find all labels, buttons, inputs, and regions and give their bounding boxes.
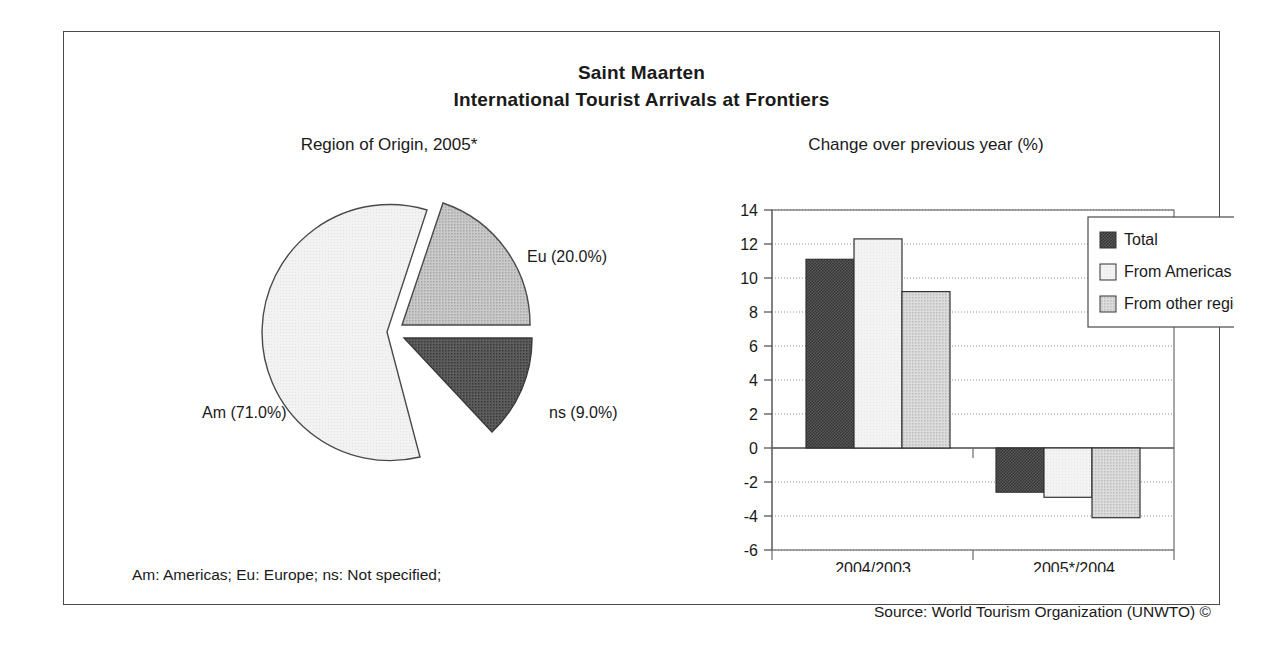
legend-label-from-other-regions: From other regions [1124, 295, 1234, 312]
y-tick-label: -2 [744, 474, 758, 491]
pie-chart-heading: Region of Origin, 2005* [234, 135, 544, 155]
pie-chart [244, 182, 574, 482]
legend-swatch-from-americas [1100, 264, 1116, 280]
pie-slice-am [262, 205, 427, 461]
y-tick-label: 4 [749, 372, 758, 389]
bar-total [806, 259, 854, 448]
y-tick-label: 2 [749, 406, 758, 423]
pie-slice-ns [404, 338, 532, 432]
legend-label-total: Total [1124, 231, 1158, 248]
x-axis-label-2004-2003: 2004/2003 [835, 560, 911, 572]
y-tick-label: 8 [749, 304, 758, 321]
footnote-abbreviations: Am: Americas; Eu: Europe; ns: Not specif… [132, 566, 441, 584]
y-tick-label: -4 [744, 508, 758, 525]
bar-group-2004-2003 [806, 239, 950, 448]
bar-chart-svg: 14 12 10 8 6 4 2 0 -2 -4 -6 [714, 192, 1234, 572]
pie-label-eu: Eu (20.0%) [527, 248, 607, 266]
bar-chart: 14 12 10 8 6 4 2 0 -2 -4 -6 [714, 192, 1234, 572]
bar-from-other-regions [902, 292, 950, 448]
y-tick-label: 6 [749, 338, 758, 355]
page-subtitle: International Tourist Arrivals at Fronti… [64, 86, 1219, 114]
title-block: Saint Maarten International Tourist Arri… [64, 60, 1219, 114]
y-tick-label: -6 [744, 542, 758, 559]
pie-label-am: Am (71.0%) [202, 404, 286, 422]
source-attribution: Source: World Tourism Organization (UNWT… [874, 603, 1211, 621]
bar-from-other-regions [1092, 448, 1140, 518]
legend-swatch-total [1100, 232, 1116, 248]
y-axis-labels: 14 12 10 8 6 4 2 0 -2 -4 -6 [740, 202, 758, 559]
chart-page: Saint Maarten International Tourist Arri… [0, 0, 1284, 658]
y-tick-label: 14 [740, 202, 758, 219]
y-tick-label: 12 [740, 236, 758, 253]
legend: Total From Americas From other regions [1088, 217, 1234, 327]
y-tick-label: 0 [749, 440, 758, 457]
bar-group-2005-2004 [996, 448, 1140, 518]
legend-swatch-from-other-regions [1100, 296, 1116, 312]
y-tick-marks [764, 210, 772, 550]
legend-label-from-americas: From Americas [1124, 263, 1232, 280]
bar-chart-heading: Change over previous year (%) [736, 135, 1116, 155]
pie-label-ns: ns (9.0%) [549, 404, 617, 422]
bar-from-americas [1044, 448, 1092, 497]
bar-total [996, 448, 1044, 492]
page-title: Saint Maarten [64, 60, 1219, 86]
y-tick-label: 10 [740, 270, 758, 287]
x-axis-label-2005-2004: 2005*/2004 [1033, 560, 1115, 572]
bar-from-americas [854, 239, 902, 448]
chart-frame: Saint Maarten International Tourist Arri… [63, 31, 1220, 605]
pie-chart-svg [244, 182, 574, 482]
